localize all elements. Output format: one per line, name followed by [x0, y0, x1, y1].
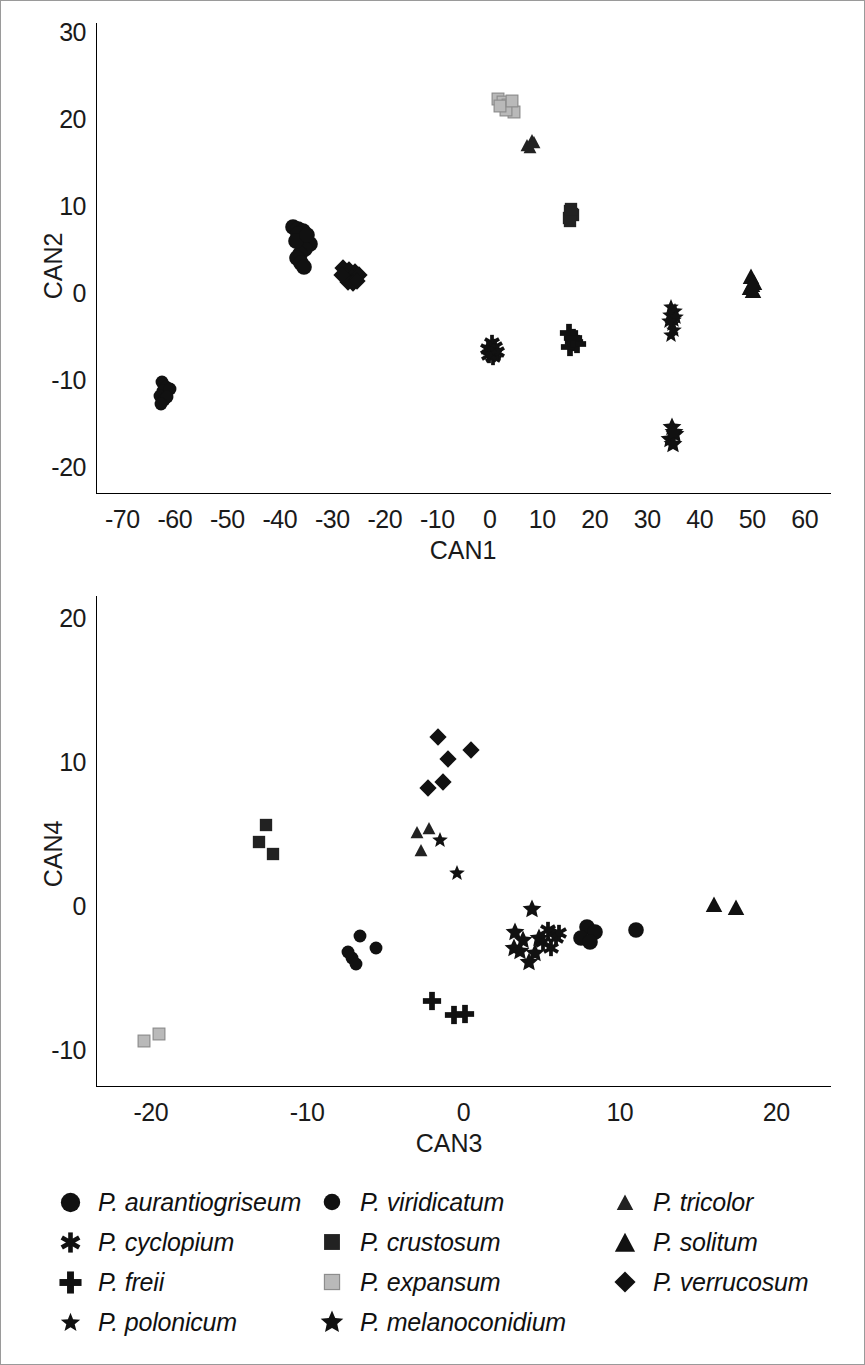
x-tick-label: 60 [791, 505, 818, 534]
data-point-cyclopium [483, 335, 500, 352]
y-axis-title-top: CAN2 [39, 233, 68, 300]
data-point-aurantiogriseum [627, 922, 644, 939]
legend-item-verrucosum[interactable]: P. verrucosum [611, 1263, 808, 1301]
data-point-aurantiogriseum [295, 223, 312, 240]
data-point-verrucosum [340, 261, 358, 279]
data-point-cyclopium [535, 933, 552, 950]
legend-item-polonicum[interactable]: P. polonicum [56, 1303, 237, 1341]
x-axis-line-top [96, 493, 831, 494]
data-point-solitum [705, 895, 723, 913]
data-point-aurantiogriseum [299, 227, 316, 244]
data-point-polonicum [665, 311, 682, 328]
legend-label-polonicum: P. polonicum [98, 1308, 237, 1337]
data-point-tricolor [525, 133, 539, 147]
data-point-viridicatum [159, 380, 173, 394]
data-point-polonicum [664, 316, 681, 333]
x-tick-label: -60 [157, 505, 192, 534]
data-point-viridicatum [157, 393, 171, 407]
legend-item-expansum[interactable]: P. expansum [318, 1263, 501, 1301]
data-point-aurantiogriseum [579, 919, 596, 936]
square-light-icon [318, 1268, 346, 1296]
data-point-verrucosum [462, 741, 480, 759]
data-point-verrucosum [429, 728, 447, 746]
data-point-tricolor [520, 138, 534, 152]
data-point-polonicum [449, 864, 466, 881]
data-point-melanoconidium [660, 429, 680, 449]
plot-area-top [96, 23, 831, 493]
data-point-aurantiogriseum [301, 236, 318, 253]
data-point-verrucosum [350, 266, 368, 284]
data-point-polonicum [662, 307, 679, 324]
data-point-expansum [496, 95, 510, 109]
square-icon [318, 1228, 346, 1256]
data-point-crustosum [562, 211, 576, 225]
data-point-expansum [137, 1034, 151, 1048]
data-point-viridicatum [156, 384, 170, 398]
legend-item-tricolor[interactable]: P. tricolor [611, 1183, 753, 1221]
y-tick-label: -10 [51, 365, 86, 394]
data-point-tricolor [527, 135, 541, 149]
data-point-crustosum [563, 214, 577, 228]
legend-item-viridicatum[interactable]: P. viridicatum [318, 1183, 504, 1221]
data-point-verrucosum [344, 274, 362, 292]
data-point-aurantiogriseum [298, 232, 315, 249]
data-point-freii [567, 335, 586, 354]
y-tick-label: 20 [59, 104, 86, 133]
data-point-cyclopium [487, 338, 504, 355]
plus-icon [56, 1268, 84, 1296]
x-tick-label: 20 [581, 505, 608, 534]
x-tick-label: -20 [133, 1098, 168, 1127]
data-point-tricolor [422, 821, 436, 835]
legend-item-crustosum[interactable]: P. crustosum [318, 1223, 500, 1261]
data-point-freii [423, 991, 442, 1010]
circle-icon [318, 1188, 346, 1216]
data-point-freii [560, 337, 579, 356]
data-point-solitum [727, 898, 745, 916]
data-point-melanoconidium [529, 928, 549, 948]
data-point-melanoconidium [662, 417, 682, 437]
data-point-viridicatum [153, 389, 167, 403]
x-tick-label: 10 [606, 1098, 633, 1127]
x-tick-label: -10 [420, 505, 455, 534]
data-point-tricolor [523, 140, 537, 154]
scatter-plot-can1-can2: -70-60-50-40-30-20-100102030405060 -20-1… [1, 1, 865, 576]
data-point-aurantiogriseum [586, 923, 603, 940]
data-point-verrucosum [348, 272, 366, 290]
data-point-viridicatum [341, 945, 355, 959]
data-point-cyclopium [479, 340, 496, 357]
data-point-tricolor [410, 825, 424, 839]
x-tick-label: 10 [529, 505, 556, 534]
data-point-melanoconidium [510, 941, 530, 961]
legend-label-viridicatum: P. viridicatum [360, 1188, 504, 1217]
legend-item-solitum[interactable]: P. solitum [611, 1223, 758, 1261]
x-tick-label: -20 [367, 505, 402, 534]
scatter-plot-can3-can4: -20-1001020 -1001020 CAN3 CAN4 [1, 576, 865, 1166]
data-point-crustosum [565, 207, 579, 221]
data-point-cyclopium [480, 347, 497, 364]
data-point-tricolor [414, 843, 428, 857]
data-point-solitum [742, 267, 760, 285]
legend-item-melanoconidium[interactable]: P. melanoconidium [318, 1303, 566, 1341]
data-point-freii [563, 329, 582, 348]
data-point-polonicum [665, 322, 682, 339]
data-point-crustosum [563, 204, 577, 218]
legend-item-freii[interactable]: P. freii [56, 1263, 164, 1301]
data-point-expansum [499, 103, 513, 117]
triangle-icon [611, 1188, 639, 1216]
x-axis-line-bottom [96, 1086, 831, 1087]
x-tick-label: 0 [457, 1098, 470, 1127]
legend-item-aurantiogriseum[interactable]: P. aurantiogriseum [56, 1183, 301, 1221]
data-point-crustosum [564, 202, 578, 216]
data-point-aurantiogriseum [288, 250, 305, 267]
data-point-viridicatum [154, 397, 168, 411]
plot-area-bottom [96, 596, 831, 1086]
data-point-verrucosum [439, 750, 457, 768]
diamond-icon [611, 1268, 639, 1296]
x-tick-label: 40 [686, 505, 713, 534]
data-point-crustosum [266, 847, 280, 861]
data-point-expansum [507, 105, 521, 119]
y-tick-label: 0 [73, 278, 86, 307]
legend-item-cyclopium[interactable]: P. cyclopium [56, 1223, 234, 1261]
data-point-expansum [152, 1027, 166, 1041]
data-point-expansum [491, 92, 505, 106]
